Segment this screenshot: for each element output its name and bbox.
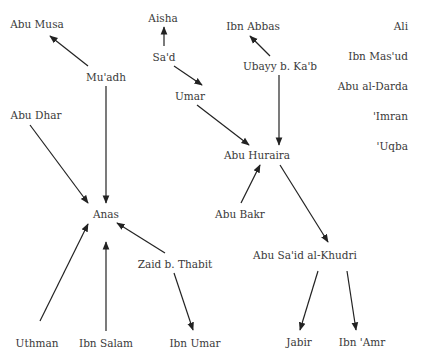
edge-zaid-to-ibn_umar bbox=[174, 273, 193, 330]
node-ibn_umar: Ibn Umar bbox=[169, 338, 220, 349]
node-ibn_amr: Ibn 'Amr bbox=[339, 337, 385, 348]
node-zaid: Zaid b. Thabit bbox=[138, 259, 213, 270]
isolated-node-ali: Ali bbox=[394, 21, 408, 32]
node-jabir: Jabir bbox=[286, 337, 312, 348]
edge-muadh-to-abu_musa bbox=[50, 36, 88, 66]
isolated-node-ibn_masud: Ibn Mas'ud bbox=[348, 51, 408, 62]
node-sad: Sa'd bbox=[152, 52, 175, 63]
edge-sad-to-umar bbox=[174, 66, 202, 85]
edge-abu_huraira-to-abu_said bbox=[280, 165, 328, 242]
isolated-node-abu_darda: Abu al-Darda bbox=[338, 81, 408, 92]
node-abu_huraira: Abu Huraira bbox=[224, 150, 290, 161]
node-ibn_abbas: Ibn Abbas bbox=[226, 21, 280, 32]
edge-umar-to-abu_huraira bbox=[197, 105, 249, 145]
node-abu_bakr: Abu Bakr bbox=[215, 209, 265, 220]
isolated-node-imran: 'Imran bbox=[373, 111, 408, 122]
node-abu_musa: Abu Musa bbox=[10, 19, 64, 30]
node-anas: Anas bbox=[93, 209, 119, 220]
node-aisha: Aisha bbox=[148, 13, 177, 24]
node-uthman: Uthman bbox=[16, 338, 59, 349]
edge-uthman-to-anas bbox=[40, 224, 88, 321]
edge-ubayy-to-ibn_abbas bbox=[250, 36, 270, 56]
node-ubayy: Ubayy b. Ka'b bbox=[243, 61, 317, 72]
edge-abu_said-to-jabir bbox=[300, 271, 318, 330]
node-abu_said: Abu Sa'id al-Khudri bbox=[253, 250, 357, 261]
isnad-diagram: AishaSa'dAbu MusaMu'adhAbu DharUmarIbn A… bbox=[0, 0, 424, 362]
edge-zaid-to-anas bbox=[117, 223, 165, 253]
edge-abu_said-to-ibn_amr bbox=[347, 271, 356, 330]
node-ibn_salam: Ibn Salam bbox=[79, 338, 133, 349]
edge-abu_bakr-to-abu_huraira bbox=[241, 165, 260, 203]
isolated-node-uqba: 'Uqba bbox=[377, 141, 408, 152]
node-muadh: Mu'adh bbox=[86, 72, 126, 83]
node-abu_dhar: Abu Dhar bbox=[11, 110, 62, 121]
edge-abu_dhar-to-anas bbox=[30, 125, 88, 203]
node-umar: Umar bbox=[175, 91, 205, 102]
